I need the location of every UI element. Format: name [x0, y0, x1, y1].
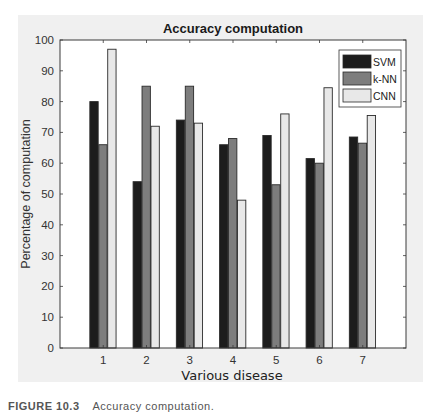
- bar-svm-7: [349, 137, 357, 348]
- bar-svm-6: [306, 159, 314, 348]
- y-tick-label: 70: [41, 126, 54, 138]
- x-axis-label: Various disease: [181, 368, 282, 383]
- bar-knn-4: [229, 139, 237, 348]
- bar-knn-2: [142, 86, 150, 348]
- y-tick-label: 20: [41, 280, 54, 292]
- legend-swatch-knn: [343, 72, 371, 85]
- figure-number: FIGURE 10.3: [8, 400, 80, 412]
- bar-svm-5: [263, 135, 271, 348]
- bar-knn-5: [272, 185, 280, 348]
- y-tick-label: 0: [48, 342, 54, 354]
- legend: SVMk-NNCNN: [339, 50, 401, 107]
- bar-cnn-7: [367, 115, 375, 348]
- bar-knn-7: [358, 143, 366, 348]
- y-tick-label: 90: [41, 65, 54, 77]
- bar-knn-1: [99, 145, 107, 348]
- figure-caption: FIGURE 10.3 Accuracy computation.: [8, 400, 214, 412]
- bar-cnn-3: [194, 123, 202, 348]
- x-tick-label: 7: [360, 354, 366, 366]
- x-tick-label: 6: [316, 354, 322, 366]
- bar-cnn-6: [324, 88, 332, 348]
- bar-svm-4: [220, 145, 228, 348]
- x-tick-label: 5: [273, 354, 279, 366]
- legend-swatch-cnn: [343, 89, 371, 102]
- y-tick-label: 80: [41, 96, 54, 108]
- y-tick-label: 40: [41, 219, 54, 231]
- bar-knn-3: [185, 86, 193, 348]
- bar-cnn-1: [108, 49, 116, 348]
- bar-knn-6: [315, 163, 323, 348]
- bar-svm-2: [133, 182, 141, 348]
- bar-cnn-4: [237, 200, 245, 348]
- x-tick-label: 4: [230, 354, 237, 366]
- chart-title: Accuracy computation: [163, 21, 303, 36]
- y-tick-label: 30: [41, 250, 54, 262]
- y-tick-label: 60: [41, 157, 54, 169]
- bar-svm-3: [176, 120, 184, 348]
- caption-text: Accuracy computation.: [92, 400, 214, 412]
- legend-label-knn: k-NN: [373, 73, 397, 85]
- y-axis-label: Percentage of computation: [19, 119, 33, 268]
- bar-cnn-2: [151, 126, 159, 348]
- x-tick-label: 1: [100, 354, 106, 366]
- bar-svm-1: [90, 102, 98, 348]
- legend-label-cnn: CNN: [373, 90, 396, 102]
- x-tick-label: 2: [143, 354, 149, 366]
- y-tick-label: 50: [41, 188, 54, 200]
- legend-label-svm: SVM: [373, 56, 396, 68]
- y-tick-label: 100: [35, 34, 54, 46]
- bar-cnn-5: [281, 114, 289, 348]
- y-tick-label: 10: [41, 311, 54, 323]
- legend-swatch-svm: [343, 55, 371, 68]
- x-tick-label: 3: [187, 354, 193, 366]
